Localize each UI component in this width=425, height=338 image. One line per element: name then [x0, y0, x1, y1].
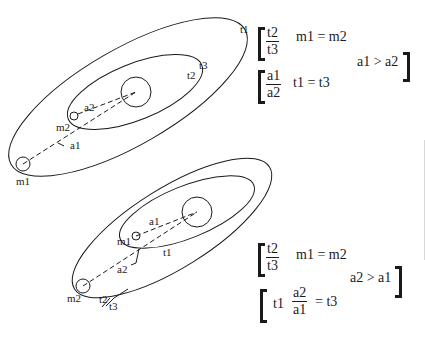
- top-body-m2: [70, 112, 78, 120]
- bottom-eq1-rhs: m1 = m2: [296, 248, 347, 262]
- top-label-m2: m2: [56, 122, 70, 133]
- bottom-label-a2: a2: [117, 264, 127, 275]
- top-a1-leader: [58, 143, 64, 146]
- bottom-eq1-bracket: [258, 243, 265, 277]
- top-label-t1: t1: [240, 24, 249, 35]
- bottom-condition-bracket: [395, 266, 402, 298]
- bottom-label-a1: a1: [149, 216, 159, 227]
- bottom-eq2-fraction: a2 a1: [292, 286, 307, 317]
- bottom-condition: a2 > a1: [350, 271, 391, 285]
- top-eq2-fraction: a1 a2: [266, 69, 281, 100]
- top-eq2-rhs: t1 = t3: [293, 76, 330, 90]
- top-eq1-rhs: m1 = m2: [296, 30, 347, 44]
- bottom-inner-orbit-t1: [111, 161, 264, 263]
- top-eq2-bracket: [258, 70, 265, 104]
- orbit-diagram: [0, 0, 425, 338]
- bottom-label-t2: t2: [99, 294, 108, 305]
- bottom-eq2-bracket: [260, 289, 267, 323]
- top-label-t3: t3: [199, 60, 208, 71]
- bottom-eq2-rhs: = t3: [315, 295, 337, 309]
- bottom-label-m1: m1: [117, 236, 131, 247]
- bottom-label-t3: t3: [109, 301, 118, 312]
- top-condition: a1 > a2: [357, 55, 398, 69]
- top-label-t2: t2: [187, 70, 196, 81]
- top-label-a2: a2: [84, 102, 94, 113]
- bottom-a2-leader: [131, 249, 139, 265]
- top-label-a1: a1: [70, 140, 80, 151]
- bottom-eq1-fraction: t2 t3: [266, 242, 279, 273]
- top-eq1-fraction: t2 t3: [266, 26, 279, 57]
- bottom-label-t1: t1: [163, 247, 172, 258]
- top-central-body: [121, 77, 151, 107]
- top-eq1-bracket: [258, 27, 265, 61]
- bottom-radius-a2: [83, 212, 197, 286]
- bottom-label-m2: m2: [67, 293, 81, 304]
- top-label-m1: m1: [16, 176, 30, 187]
- bottom-eq2-lhs: t1: [273, 297, 284, 311]
- top-outer-orbit-t1: [0, 0, 269, 206]
- top-inner-orbit-t2-t3: [58, 39, 212, 145]
- top-condition-bracket: [403, 52, 410, 82]
